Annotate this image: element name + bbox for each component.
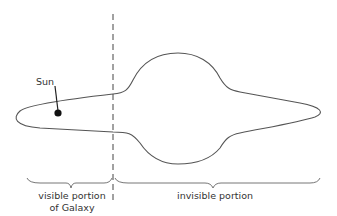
invisible-portion-label: invisible portion <box>160 190 270 202</box>
visible-portion-line1: visible portion <box>36 190 108 202</box>
visible-brace <box>27 178 112 188</box>
galaxy-outline <box>16 53 320 164</box>
sun-label: Sun <box>36 76 54 88</box>
sun-dot <box>54 109 61 116</box>
visible-portion-line2: of Galaxy <box>36 202 108 214</box>
sun-pointer-line <box>55 86 58 111</box>
galaxy-diagram <box>0 0 337 216</box>
invisible-brace <box>115 178 320 188</box>
visible-portion-label: visible portion of Galaxy <box>36 190 108 214</box>
